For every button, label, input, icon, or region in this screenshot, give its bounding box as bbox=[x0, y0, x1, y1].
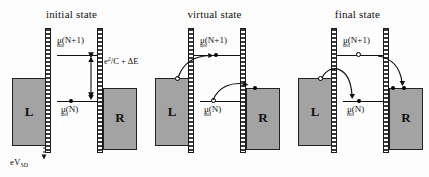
left-tunnel-barrier-initial bbox=[45, 28, 51, 153]
panel-initial-state: initial state L R μdot(N+1) μdot(N) e2/C… bbox=[0, 0, 143, 177]
electron-dot-right-reservoir-b-final bbox=[402, 86, 406, 90]
right-reservoir-label-virtual: R bbox=[246, 110, 280, 126]
left-reservoir-label-virtual: L bbox=[155, 104, 189, 120]
right-tunnel-barrier-initial bbox=[97, 28, 103, 153]
electron-dot-right-reservoir-a-final bbox=[391, 86, 395, 90]
panel-title-initial: initial state bbox=[0, 8, 143, 20]
hole-marker-mu-n-virtual bbox=[211, 98, 216, 103]
left-reservoir-label-initial: L bbox=[12, 104, 46, 120]
panel-title-virtual: virtual state bbox=[143, 8, 286, 20]
label-mu-n-initial: μdot(N) bbox=[61, 105, 78, 114]
right-tunnel-barrier-final bbox=[383, 28, 389, 153]
label-bias-voltage-initial: eVSD bbox=[10, 158, 28, 168]
level-mu-n-initial bbox=[57, 101, 97, 102]
left-tunnel-barrier-final bbox=[331, 28, 337, 153]
label-charging-energy-initial: e2/C + ΔE bbox=[104, 56, 139, 66]
right-reservoir-label-final: R bbox=[389, 110, 423, 126]
energy-level-diagram: initial state L R μdot(N+1) μdot(N) e2/C… bbox=[0, 0, 429, 177]
left-tunnel-barrier-virtual bbox=[188, 28, 194, 153]
electron-dot-mu-n-plus-1-virtual bbox=[214, 53, 218, 57]
label-mu-n-plus-1-initial: μdot(N+1) bbox=[57, 36, 84, 45]
level-mu-n-plus-1-initial bbox=[57, 55, 97, 56]
panel-virtual-state: virtual state L R μdot(N+1) μdot(N) bbox=[143, 0, 286, 177]
hole-marker-left-reservoir-final bbox=[318, 76, 323, 81]
level-mu-n-virtual bbox=[200, 101, 240, 102]
right-reservoir-label-initial: R bbox=[103, 110, 137, 126]
label-mu-n-plus-1-virtual: μdot(N+1) bbox=[200, 36, 227, 45]
label-mu-n-final: μdot(N) bbox=[347, 105, 364, 114]
hole-marker-left-reservoir-virtual bbox=[175, 76, 180, 81]
panel-final-state: final state L R μdot(N+1) μdot(N) bbox=[286, 0, 429, 177]
electron-dot-mu-n-initial bbox=[69, 99, 73, 103]
level-mu-n-final bbox=[343, 101, 383, 102]
label-mu-n-plus-1-final: μdot(N+1) bbox=[343, 36, 370, 45]
electron-dot-right-reservoir-virtual bbox=[253, 86, 257, 90]
label-mu-n-virtual: μdot(N) bbox=[204, 105, 221, 114]
panel-title-final: final state bbox=[286, 8, 429, 20]
right-tunnel-barrier-virtual bbox=[240, 28, 246, 153]
electron-dot-mu-n-final bbox=[357, 99, 361, 103]
left-reservoir-label-final: L bbox=[298, 104, 332, 120]
hole-marker-mu-n-plus-1-final bbox=[356, 52, 361, 57]
